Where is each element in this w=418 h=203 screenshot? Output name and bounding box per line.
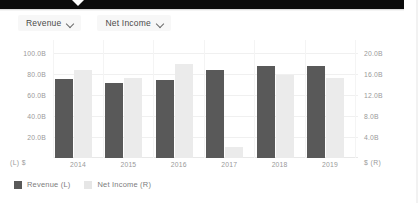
bar-net-income[interactable] bbox=[326, 78, 344, 158]
left-tick-3: 40.0B bbox=[27, 113, 46, 120]
legend-label-net-income: Net Income (R) bbox=[97, 180, 151, 189]
x-tick-label: 2019 bbox=[305, 161, 355, 168]
bar-revenue[interactable] bbox=[105, 83, 123, 158]
metric-selector-revenue[interactable]: Revenue bbox=[18, 15, 81, 31]
right-tick-4: 4.0B bbox=[364, 134, 379, 141]
bar-group[interactable] bbox=[255, 40, 305, 158]
bar-revenue[interactable] bbox=[55, 79, 73, 158]
left-tick-2: 60.0B bbox=[27, 92, 46, 99]
right-tick-3: 8.0B bbox=[364, 113, 379, 120]
tooltip-shadow bbox=[0, 9, 404, 11]
x-tick-label: 2018 bbox=[255, 161, 305, 168]
right-tick-0: 20.0B bbox=[364, 50, 383, 57]
bar-net-income[interactable] bbox=[74, 70, 92, 159]
chevron-down-icon bbox=[157, 20, 164, 27]
bar-net-income[interactable] bbox=[124, 78, 142, 158]
right-axis-ticks: 20.0B 16.0B 12.0B 8.0B 4.0B bbox=[362, 40, 416, 158]
chart-legend: Revenue (L) Net Income (R) bbox=[14, 180, 151, 189]
bar-net-income[interactable] bbox=[175, 64, 193, 158]
legend-item-net-income[interactable]: Net Income (R) bbox=[84, 180, 151, 189]
left-tick-4: 20.0B bbox=[27, 134, 46, 141]
bar-group[interactable] bbox=[103, 40, 153, 158]
tooltip-bar bbox=[0, 0, 404, 9]
x-tick-label: 2014 bbox=[53, 161, 103, 168]
metric-selector-net-income-label: Net Income bbox=[105, 18, 150, 28]
bar-group[interactable] bbox=[53, 40, 103, 158]
metric-selector-row: Revenue Net Income bbox=[18, 14, 171, 32]
x-tick-label: 2015 bbox=[103, 161, 153, 168]
bar-group[interactable] bbox=[305, 40, 355, 158]
legend-label-revenue: Revenue (L) bbox=[27, 180, 70, 189]
x-tick-label: 2017 bbox=[204, 161, 254, 168]
tooltip-notch bbox=[72, 0, 84, 6]
right-tick-1: 16.0B bbox=[364, 71, 383, 78]
x-axis-ticks: 201420152016201720182019 bbox=[53, 159, 358, 173]
left-tick-1: 80.0B bbox=[27, 71, 46, 78]
bar-group[interactable] bbox=[154, 40, 204, 158]
left-axis-ticks: 100.0B 80.0B 60.0B 40.0B 20.0B bbox=[0, 40, 50, 158]
metric-selector-net-income[interactable]: Net Income bbox=[97, 15, 170, 31]
bar-net-income[interactable] bbox=[276, 75, 294, 158]
left-axis-unit: (L) $ bbox=[10, 159, 26, 166]
metric-selector-revenue-label: Revenue bbox=[26, 18, 61, 28]
legend-swatch-icon bbox=[14, 181, 22, 189]
bar-group[interactable] bbox=[204, 40, 254, 158]
bar-revenue[interactable] bbox=[257, 66, 275, 158]
legend-item-revenue[interactable]: Revenue (L) bbox=[14, 180, 70, 189]
legend-swatch-icon bbox=[84, 181, 92, 189]
bar-net-income[interactable] bbox=[225, 147, 243, 158]
right-tick-2: 12.0B bbox=[364, 92, 383, 99]
chevron-down-icon bbox=[67, 20, 74, 27]
left-tick-0: 100.0B bbox=[23, 50, 46, 57]
x-tick-label: 2016 bbox=[154, 161, 204, 168]
plot-area: 100.0B 80.0B 60.0B 40.0B 20.0B 20.0B 16.… bbox=[0, 40, 418, 165]
bar-revenue[interactable] bbox=[307, 66, 325, 158]
bar-revenue[interactable] bbox=[156, 80, 174, 158]
chart-widget: Revenue Net Income 100.0B 80.0B 60.0B 40… bbox=[0, 0, 418, 203]
bar-series-container bbox=[53, 40, 358, 158]
right-axis-unit: $ (R) bbox=[364, 159, 381, 166]
bar-revenue[interactable] bbox=[206, 70, 224, 158]
